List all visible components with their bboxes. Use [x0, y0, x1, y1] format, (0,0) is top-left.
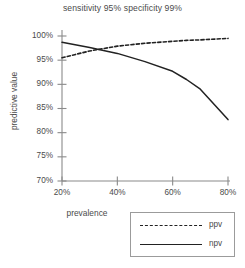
- series-line-ppv: [62, 38, 228, 57]
- x-tick-label: 40%: [97, 188, 137, 197]
- legend-label-ppv: ppv: [209, 220, 222, 229]
- y-tick-label: 95%: [17, 55, 53, 64]
- x-tick-label: 60%: [153, 188, 193, 197]
- legend-item-npv: npv: [131, 236, 236, 254]
- y-tick-label: 80%: [17, 127, 53, 136]
- legend-label-npv: npv: [209, 239, 222, 248]
- y-tick-label: 90%: [17, 79, 53, 88]
- y-tick-label: 70%: [17, 176, 53, 185]
- y-tick-label: 100%: [17, 31, 53, 40]
- legend-item-ppv: ppv: [131, 217, 236, 235]
- legend-swatch-dashed-icon: [140, 225, 202, 229]
- legend-swatch-solid-icon: [140, 244, 202, 248]
- y-tick-label: 75%: [17, 151, 53, 160]
- x-tick-label: 80%: [208, 188, 245, 197]
- series-line-npv: [62, 42, 228, 119]
- chart-figure: sensitivity 95% specificity 99% predicti…: [0, 0, 245, 268]
- chart-legend: ppv npv: [130, 212, 235, 257]
- x-axis-label: prevalence: [32, 208, 142, 218]
- y-tick-label: 85%: [17, 103, 53, 112]
- x-tick-label: 20%: [42, 188, 82, 197]
